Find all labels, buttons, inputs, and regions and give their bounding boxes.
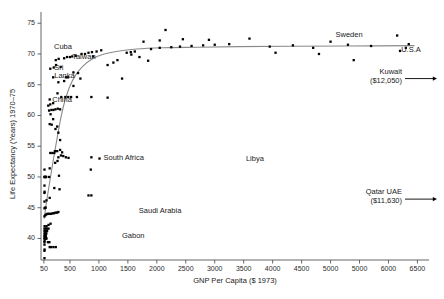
y-tick-label: 55	[27, 143, 35, 150]
y-axis-ticks	[38, 23, 42, 238]
y-tick-label: 70	[27, 50, 35, 57]
offscale-annotation-value: ($12,050)	[370, 77, 402, 85]
trend-curve	[44, 46, 414, 219]
offscale-arrows	[405, 76, 437, 201]
x-axis-title: GNP Per Capita ($ 1973)	[193, 277, 277, 285]
scatter-chart-figure: Life Expectancy (Years) 1970–75 GNP Per …	[0, 0, 444, 299]
point-label: U.S.A	[401, 46, 421, 54]
y-tick-label: 45	[27, 204, 35, 211]
x-tick-label: 500	[64, 265, 76, 272]
y-tick-label: 40	[27, 235, 35, 242]
y-tick-label: 75	[27, 20, 35, 27]
x-tick-label: 6000	[381, 265, 397, 272]
point-label: Saudi Arabia	[139, 207, 182, 215]
point-label: Libya	[246, 155, 264, 163]
x-tick-label: 4500	[294, 265, 310, 272]
offscale-annotation-name: Qatar UAE	[366, 188, 402, 196]
point-label: Lanka	[54, 72, 74, 80]
y-tick-label: 60	[27, 112, 35, 119]
y-axis-title: Life Expectancy (Years) 1970–75	[9, 89, 17, 199]
x-tick-label: 6500	[410, 265, 426, 272]
y-tick-label: 50	[27, 173, 35, 180]
data-points	[43, 29, 410, 259]
point-label: Sweden	[336, 31, 363, 39]
x-tick-label: 2500	[178, 265, 194, 272]
x-tick-label: 5000	[323, 265, 339, 272]
x-tick-label: 1000	[91, 265, 107, 272]
x-tick-label: 4000	[265, 265, 281, 272]
x-tick-label: 3500	[236, 265, 252, 272]
point-label: China	[52, 96, 72, 104]
point-label: Cuba	[54, 43, 72, 51]
y-tick-label: 65	[27, 81, 35, 88]
point-label: Gabon	[122, 232, 145, 240]
x-tick-label: 2000	[149, 265, 165, 272]
point-label: Taiwan	[72, 53, 95, 61]
offscale-annotation-name: Kuwait	[379, 68, 402, 76]
offscale-annotation-value: ($11,630)	[370, 197, 402, 205]
x-tick-label: 50	[40, 265, 48, 272]
x-tick-label: 3000	[207, 265, 223, 272]
point-label: South Africa	[103, 154, 143, 162]
x-tick-label: 5000	[352, 265, 368, 272]
axes	[41, 12, 429, 260]
x-axis-ticks	[44, 260, 418, 264]
x-tick-label: 1500	[120, 265, 136, 272]
